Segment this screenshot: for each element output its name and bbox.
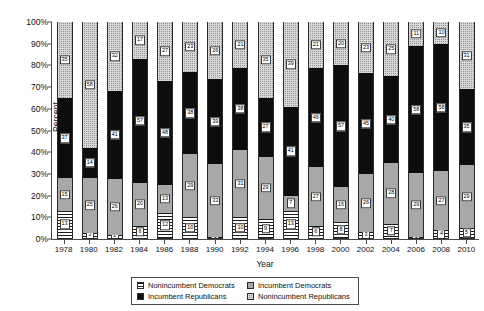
bar-segment[interactable]: 27 — [258, 98, 274, 157]
bar-segment[interactable]: 10 — [182, 217, 198, 239]
bar-segment[interactable]: 27 — [433, 171, 449, 230]
bar-segment[interactable]: 21 — [232, 22, 248, 68]
bar-segment[interactable]: 20 — [333, 22, 349, 65]
bar-column[interactable]: 12134827 — [153, 22, 178, 239]
bar-column[interactable]: 9292735 — [253, 22, 278, 239]
bar-segment[interactable]: 1 — [408, 237, 424, 239]
legend-item[interactable]: Nonincumbent Democrats — [137, 281, 243, 290]
bar-column[interactable]: 1374139 — [278, 22, 303, 239]
bar-segment[interactable]: 1 — [207, 237, 223, 239]
bar-segment[interactable]: 58 — [408, 46, 424, 173]
bar-segment[interactable]: 41 — [107, 91, 123, 179]
bar-segment[interactable]: 57 — [333, 65, 349, 187]
bar-segment[interactable]: 39 — [283, 22, 299, 107]
bar-segment[interactable]: 4 — [433, 230, 449, 239]
bar-segment[interactable]: 20 — [132, 183, 148, 226]
bar-segment[interactable]: 35 — [57, 22, 73, 98]
stacked-bar[interactable]: 7284025 — [383, 22, 399, 239]
stacked-bar[interactable]: 2264132 — [107, 22, 123, 239]
bar-segment[interactable]: 17 — [132, 22, 148, 59]
bar-segment[interactable]: 33 — [207, 164, 223, 236]
legend-item[interactable]: Incumbent Republicans — [137, 292, 243, 301]
bar-segment[interactable]: 41 — [283, 107, 299, 196]
bar-segment[interactable]: 23 — [358, 22, 374, 73]
bar-segment[interactable]: 29 — [258, 157, 274, 220]
bar-segment[interactable]: 9 — [258, 219, 274, 239]
legend-item[interactable]: Incumbent Democrats — [247, 281, 353, 290]
bar-segment[interactable]: 37 — [57, 98, 73, 178]
stacked-bar[interactable]: 1295811 — [408, 22, 424, 239]
stacked-bar[interactable]: 10313821 — [232, 22, 248, 239]
bar-segment[interactable]: 38 — [182, 72, 198, 154]
bar-segment[interactable]: 3 — [358, 232, 374, 239]
bar-segment[interactable]: 15 — [57, 178, 73, 211]
stacked-bar[interactable]: 1333926 — [207, 22, 223, 239]
bar-segment[interactable]: 35 — [459, 89, 475, 165]
bar-column[interactable]: 1295811 — [404, 22, 429, 239]
bar-segment[interactable]: 45 — [358, 73, 374, 174]
bar-segment[interactable]: 21 — [308, 22, 324, 68]
bar-segment[interactable]: 48 — [157, 81, 173, 185]
stacked-bar[interactable]: 4275810 — [433, 22, 449, 239]
bar-segment[interactable]: 32 — [107, 22, 123, 91]
bar-segment[interactable]: 6 — [308, 226, 324, 239]
stacked-bar[interactable]: 8165720 — [333, 22, 349, 239]
bar-segment[interactable]: 12 — [157, 213, 173, 239]
bar-segment[interactable]: 38 — [232, 68, 248, 150]
bar-column[interactable]: 1333926 — [203, 22, 228, 239]
stacked-bar[interactable]: 6274621 — [308, 22, 324, 239]
stacked-bar[interactable]: 5293531 — [459, 22, 475, 239]
bar-segment[interactable]: 13 — [157, 185, 173, 213]
bar-segment[interactable]: 8 — [333, 222, 349, 239]
bar-segment[interactable]: 13 — [57, 211, 73, 239]
stacked-bar[interactable]: 1374139 — [283, 22, 299, 239]
bar-column[interactable]: 8165720 — [328, 22, 353, 239]
bar-segment[interactable]: 11 — [408, 22, 424, 46]
bar-column[interactable]: 3264523 — [354, 22, 379, 239]
bar-segment[interactable]: 31 — [459, 22, 475, 89]
bar-segment[interactable]: 26 — [358, 174, 374, 232]
bar-segment[interactable]: 5 — [459, 228, 475, 239]
bar-segment[interactable]: 29 — [459, 165, 475, 228]
bar-column[interactable]: 4275810 — [429, 22, 454, 239]
bar-segment[interactable]: 10 — [232, 217, 248, 239]
bar-segment[interactable]: 58 — [82, 22, 98, 148]
bar-segment[interactable]: 10 — [433, 22, 449, 44]
stacked-bar[interactable]: 3264523 — [358, 22, 374, 239]
bar-column[interactable]: 3251458 — [77, 22, 102, 239]
bar-column[interactable]: 13153735 — [52, 22, 77, 239]
bar-segment[interactable]: 7 — [383, 224, 399, 239]
bar-segment[interactable]: 29 — [408, 173, 424, 237]
legend-item[interactable]: Nonincumbent Republicans — [247, 292, 353, 301]
bar-segment[interactable]: 26 — [207, 22, 223, 79]
bar-segment[interactable]: 29 — [182, 154, 198, 217]
bar-segment[interactable]: 27 — [157, 22, 173, 81]
bar-column[interactable]: 6205717 — [127, 22, 152, 239]
stacked-bar[interactable]: 3251458 — [82, 22, 98, 239]
stacked-bar[interactable]: 9292735 — [258, 22, 274, 239]
bar-segment[interactable]: 28 — [383, 163, 399, 224]
bar-column[interactable]: 10293823 — [178, 22, 203, 239]
stacked-bar[interactable]: 12134827 — [157, 22, 173, 239]
bar-column[interactable]: 7284025 — [379, 22, 404, 239]
bar-segment[interactable]: 35 — [258, 22, 274, 98]
bar-segment[interactable]: 13 — [283, 211, 299, 239]
bar-segment[interactable]: 57 — [132, 59, 148, 183]
bar-segment[interactable]: 58 — [433, 44, 449, 171]
bar-column[interactable]: 6274621 — [303, 22, 328, 239]
bar-segment[interactable]: 6 — [132, 226, 148, 239]
bar-column[interactable]: 5293531 — [454, 22, 479, 239]
bar-segment[interactable]: 16 — [333, 187, 349, 221]
bar-segment[interactable]: 23 — [182, 22, 198, 72]
bar-segment[interactable]: 40 — [383, 76, 399, 163]
bar-column[interactable]: 10313821 — [228, 22, 253, 239]
bar-segment[interactable]: 2 — [107, 235, 123, 239]
stacked-bar[interactable]: 13153735 — [57, 22, 73, 239]
bar-segment[interactable]: 14 — [82, 148, 98, 178]
bar-segment[interactable]: 7 — [283, 196, 299, 211]
bar-segment[interactable]: 27 — [308, 167, 324, 226]
stacked-bar[interactable]: 6205717 — [132, 22, 148, 239]
bar-segment[interactable]: 31 — [232, 150, 248, 217]
bar-segment[interactable]: 25 — [82, 178, 98, 232]
bar-column[interactable]: 2264132 — [102, 22, 127, 239]
